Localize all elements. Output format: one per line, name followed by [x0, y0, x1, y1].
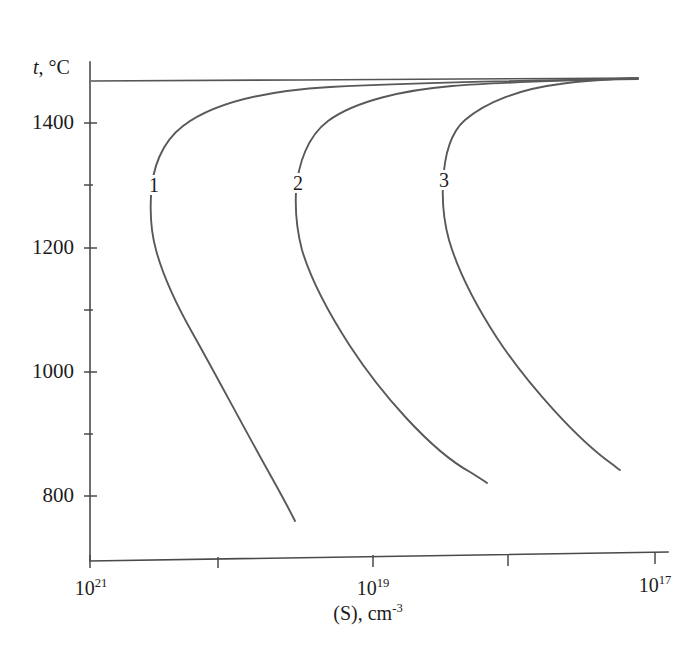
x-tick-label-1e17-exponent: 17 [659, 573, 672, 587]
x-tick-label-1e21: 1021 [60, 578, 122, 598]
x-axis-title-text: (S), cm [333, 602, 392, 624]
x-tick-label-1e17-mantissa: 10 [639, 574, 659, 596]
x-tick-label-1e19-mantissa: 10 [357, 577, 377, 599]
y-axis-title: t, °C [33, 57, 70, 77]
x-tick-label-1e21-mantissa: 10 [75, 577, 95, 599]
y-tick-label-1000: 1000 [0, 361, 74, 382]
y-tick-label-1200: 1200 [0, 237, 74, 258]
curve-label-1: 1 [148, 175, 160, 195]
x-axis-title-exponent: -3 [392, 601, 403, 615]
x-tick-label-1e19-exponent: 19 [377, 576, 390, 590]
solubility-curve-3 [443, 78, 638, 470]
x-tick-label-1e19: 1019 [342, 578, 404, 598]
x-axis-line [90, 552, 668, 561]
figure-container: t, °C 1400 1200 1000 800 1021 1019 1017 … [0, 0, 690, 648]
x-tick-label-1e17: 1017 [624, 575, 686, 595]
y-tick-label-1400: 1400 [0, 112, 74, 133]
x-tick-label-1e21-exponent: 21 [95, 576, 108, 590]
curve-label-2: 2 [292, 173, 304, 193]
y-tick-label-800: 800 [0, 485, 74, 506]
y-axis-title-unit: , °C [39, 56, 70, 78]
solubility-curve-2 [296, 79, 638, 484]
x-axis-title: (S), cm-3 [268, 603, 468, 623]
plot-canvas [0, 0, 690, 648]
solubility-curve-1 [151, 79, 638, 521]
curve-label-3: 3 [438, 170, 450, 190]
